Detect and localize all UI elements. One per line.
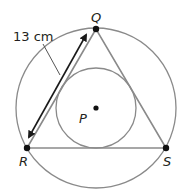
dimension-arrow-rq xyxy=(29,35,86,137)
label-q: Q xyxy=(91,10,101,25)
point-s xyxy=(163,145,169,151)
diagram-canvas: 13 cm Q R S P xyxy=(0,0,188,196)
point-r xyxy=(24,145,30,151)
label-s: S xyxy=(163,154,171,169)
label-r: R xyxy=(19,154,28,169)
measurement-label: 13 cm xyxy=(13,29,54,44)
triangle-qrs xyxy=(27,29,166,148)
point-p xyxy=(93,105,98,110)
label-p: P xyxy=(79,111,87,126)
measurement-leader-line xyxy=(43,44,60,75)
point-q xyxy=(93,26,99,32)
